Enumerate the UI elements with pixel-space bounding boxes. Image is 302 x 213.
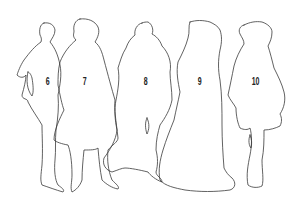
figure-6-label: 6 [46, 76, 50, 87]
figure-10-outline [228, 22, 285, 188]
figure-8-outline [103, 22, 172, 182]
figure-7-label: 7 [83, 76, 87, 87]
silhouette-outlines [0, 0, 302, 213]
figure-10-label: 10 [252, 76, 260, 87]
silhouette-sheet: 6 7 8 9 10 [0, 0, 302, 213]
figure-8-label: 8 [144, 76, 148, 87]
figure-7-outline [54, 19, 119, 192]
figure-9-label: 9 [198, 76, 202, 87]
figure-6-outline [17, 23, 64, 192]
